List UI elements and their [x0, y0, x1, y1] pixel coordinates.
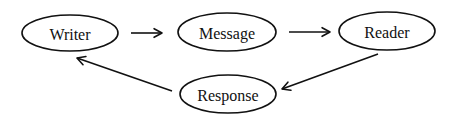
reader-label: Reader	[364, 24, 410, 41]
node-reader: Reader	[339, 12, 435, 50]
node-response: Response	[180, 75, 276, 113]
edge-reader-to-response	[282, 54, 378, 90]
arrow-line	[77, 58, 172, 91]
edge-response-to-writer	[77, 57, 172, 92]
message-label: Message	[199, 25, 255, 43]
response-label: Response	[197, 87, 258, 105]
node-writer: Writer	[22, 15, 118, 51]
edge-writer-to-message	[131, 29, 162, 38]
writer-label: Writer	[49, 26, 91, 43]
communication-cycle-diagram: Writer Message Reader Response	[0, 0, 456, 122]
node-message: Message	[178, 13, 276, 51]
arrow-line	[282, 54, 378, 89]
edge-message-to-reader	[289, 28, 330, 37]
